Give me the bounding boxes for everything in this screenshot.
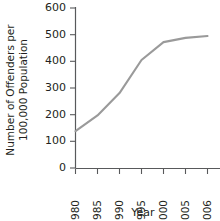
x-axis-title: Year (130, 206, 155, 219)
x-tick-label-2006: 2006 (201, 200, 213, 221)
y-axis-title-line1: Number of Offenders per (4, 24, 16, 156)
x-tick-label-2005: 2005 (179, 200, 191, 221)
y-tick-label-300: 300 (45, 81, 66, 94)
line-chart: 600 500 400 300 200 100 0 1980 1985 1990… (0, 0, 220, 221)
x-tick-label-2000: 2000 (157, 200, 169, 221)
chart-canvas: 600 500 400 300 200 100 0 1980 1985 1990… (0, 0, 220, 221)
y-tick-label-500: 500 (45, 28, 66, 41)
y-axis-tick-labels: 600 500 400 300 200 100 0 (45, 1, 66, 174)
series-line-offenders (76, 36, 208, 131)
x-tick-label-1990: 1990 (113, 200, 125, 221)
x-axis-ticks (76, 169, 208, 175)
x-tick-label-1985: 1985 (91, 200, 103, 221)
y-tick-label-0: 0 (59, 161, 66, 174)
y-axis-title-line2: 100,000 Population (17, 39, 29, 141)
y-axis-ticks (70, 8, 76, 168)
y-tick-label-100: 100 (45, 134, 66, 147)
x-tick-label-1980: 1980 (69, 200, 81, 221)
y-tick-label-200: 200 (45, 108, 66, 121)
y-axis-title: Number of Offenders per 100,000 Populati… (4, 24, 29, 156)
y-tick-label-400: 400 (45, 54, 66, 67)
y-tick-label-600: 600 (45, 1, 66, 14)
